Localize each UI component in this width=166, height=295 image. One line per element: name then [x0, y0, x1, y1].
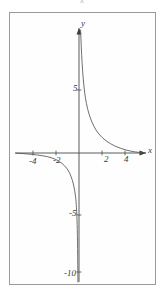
y-axis-label: y	[81, 19, 85, 28]
graph-canvas	[0, 0, 166, 295]
x-tick-label-2: 2	[104, 155, 109, 164]
x-tick-label-minus2: -2	[53, 156, 61, 165]
y-tick-label-minus10: -10	[64, 269, 76, 278]
curve-branch-upper-right	[81, 30, 145, 153]
x-tick-label-minus4: -4	[29, 157, 37, 166]
y-tick-label-5: 5	[73, 84, 78, 93]
x-tick-label-4: 4	[124, 155, 129, 164]
x-axis-label: x	[148, 146, 152, 155]
y-tick-label-minus5: -5	[69, 209, 77, 218]
figure-page: x -4 -2 2	[0, 0, 166, 295]
